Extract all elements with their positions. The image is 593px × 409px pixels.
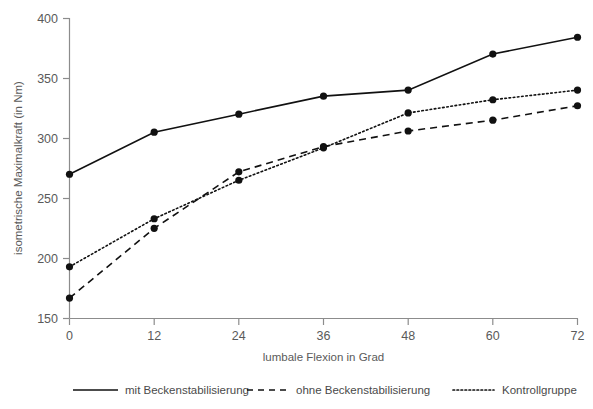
data-point xyxy=(574,87,581,94)
data-point xyxy=(151,225,158,232)
x-tick-label-0: 0 xyxy=(66,329,73,343)
data-point xyxy=(235,168,242,175)
data-point xyxy=(151,215,158,222)
x-tick-label-72: 72 xyxy=(571,329,585,343)
y-tick-label-200: 200 xyxy=(37,252,58,266)
y-tick-label-300: 300 xyxy=(37,132,58,146)
x-axis-ticks xyxy=(70,319,578,326)
legend-label-mit-beckenstabilisierung: mit Beckenstabilisierung xyxy=(125,384,249,396)
data-point xyxy=(66,171,73,178)
data-point xyxy=(405,87,412,94)
y-tick-label-350: 350 xyxy=(37,72,58,86)
series-markers-ohne-beckenstabilisierung xyxy=(66,102,581,302)
x-tick-label-36: 36 xyxy=(317,329,331,343)
x-axis-title: lumbale Flexion in Grad xyxy=(263,351,384,363)
chart-legend: mit Beckenstabilisierung ohne Beckenstab… xyxy=(73,384,577,396)
x-tick-label-60: 60 xyxy=(486,329,500,343)
data-point xyxy=(235,177,242,184)
data-point xyxy=(66,263,73,270)
chart-figure: 150 200 250 300 350 400 0 12 24 36 48 60… xyxy=(0,0,593,409)
y-tick-label-400: 400 xyxy=(37,12,58,26)
data-point xyxy=(489,117,496,124)
data-point xyxy=(574,34,581,41)
x-tick-label-48: 48 xyxy=(401,329,415,343)
data-point xyxy=(320,93,327,100)
line-chart: 150 200 250 300 350 400 0 12 24 36 48 60… xyxy=(0,0,593,409)
legend-label-kontrollgruppe: Kontrollgruppe xyxy=(502,384,577,396)
data-point xyxy=(320,144,327,151)
data-point xyxy=(66,294,73,301)
x-tick-label-12: 12 xyxy=(147,329,161,343)
data-point xyxy=(405,127,412,134)
legend-label-ohne-beckenstabilisierung: ohne Beckenstabilisierung xyxy=(296,384,430,396)
series-line-mit-beckenstabilisierung xyxy=(70,37,578,174)
y-axis-title: isometrische Maximalkraft (in Nm) xyxy=(12,81,24,255)
data-point xyxy=(151,129,158,136)
series-line-ohne-beckenstabilisierung xyxy=(70,106,578,298)
y-tick-label-250: 250 xyxy=(37,192,58,206)
data-point xyxy=(489,50,496,57)
series-markers-mit-beckenstabilisierung xyxy=(66,34,581,178)
data-point xyxy=(405,109,412,116)
y-axis-ticks xyxy=(63,19,70,319)
series-markers-kontrollgruppe xyxy=(66,87,581,271)
y-tick-label-150: 150 xyxy=(37,312,58,326)
data-point xyxy=(489,96,496,103)
data-point xyxy=(235,111,242,118)
data-point xyxy=(574,102,581,109)
x-tick-label-24: 24 xyxy=(232,329,246,343)
series-line-kontrollgruppe xyxy=(70,90,578,267)
